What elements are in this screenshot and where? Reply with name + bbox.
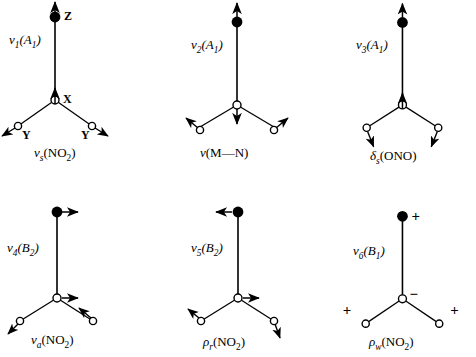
- atom-y-left-1: [14, 122, 21, 129]
- atom-y-right-6: [436, 320, 443, 327]
- mode-label-3: ν3(A1): [356, 37, 388, 55]
- arrow-y-right-2: [276, 118, 288, 128]
- mode-label-1: ν1(A1): [9, 32, 41, 50]
- mode-caption-2: ν(M—N): [200, 145, 248, 161]
- atom-x-2: [233, 101, 241, 109]
- arrow-y-right-1: [95, 128, 108, 136]
- mode-caption-3: δs(ONO): [370, 148, 417, 166]
- mode-panel-3: ν3(A1) δs(ONO): [317, 0, 475, 178]
- atom-y-right-5: [270, 317, 277, 324]
- atom-y-right-4: [89, 317, 96, 324]
- atom-x-4: [53, 294, 61, 302]
- atom-y-left-3: [363, 124, 370, 131]
- mode-diagram-1: Z X Y Y: [0, 0, 158, 178]
- atom-y-right-3: [435, 124, 442, 131]
- atom-z-4: [52, 207, 63, 218]
- mode-panel-5: ν5(B2) ρr(NO2): [158, 179, 316, 357]
- mode-diagram-6: + − + +: [317, 179, 475, 357]
- atom-y-left-4: [16, 317, 23, 324]
- arrow-y-left-4: [8, 324, 18, 334]
- mode-panel-1: Z X Y Y ν1(A1) νs(NO2): [0, 0, 158, 178]
- arrow-y-left-5: [188, 309, 199, 318]
- mode-label-2: ν2(A1): [191, 37, 223, 55]
- vibrational-modes-figure: Z X Y Y ν1(A1) νs(NO2) ν2(A1): [0, 0, 476, 357]
- atom-x-6: [398, 295, 406, 303]
- mode-panel-6: + − + + ν6(B1) ρw(NO2): [317, 179, 475, 357]
- sign-z-6: +: [411, 208, 420, 224]
- atom-label-y-right-1: Y: [81, 128, 90, 142]
- mode-label-5: ν5(B2): [191, 240, 223, 258]
- mode-panel-2: ν2(A1) ν(M—N): [158, 0, 316, 178]
- atom-label-z-1: Z: [64, 9, 72, 23]
- sign-y-left-6: +: [343, 302, 352, 318]
- mode-diagram-4: [0, 179, 158, 357]
- sign-x-6: −: [409, 286, 418, 302]
- mode-diagram-5: [158, 179, 316, 357]
- atom-label-x-1: X: [63, 92, 72, 106]
- arrow-y-left-2: [186, 118, 198, 128]
- sign-y-right-6: +: [450, 302, 459, 318]
- atom-x-5: [234, 294, 242, 302]
- mode-label-6: ν6(B1): [353, 243, 385, 261]
- arrow-y-right-3: [431, 132, 437, 147]
- atom-z-5: [233, 207, 244, 218]
- atom-z-3: [397, 17, 408, 28]
- atom-label-y-left-1: Y: [22, 128, 31, 142]
- mode-caption-6: ρw(NO2): [369, 334, 414, 352]
- arrow-y-left-1: [2, 128, 15, 136]
- atom-z-6: [397, 211, 408, 222]
- arrow-y-right-5: [275, 324, 280, 338]
- mode-label-4: ν4(B2): [7, 240, 39, 258]
- mode-caption-4: νa(NO2): [31, 332, 74, 350]
- atom-y-left-5: [197, 317, 204, 324]
- mode-caption-5: ρr(NO2): [203, 334, 245, 352]
- atom-y-left-6: [362, 320, 369, 327]
- mode-caption-1: νs(NO2): [34, 145, 76, 163]
- atom-z-2: [232, 17, 243, 28]
- arrow-y-left-3: [368, 132, 374, 147]
- mode-panel-4: ν4(B2) νa(NO2): [0, 179, 158, 357]
